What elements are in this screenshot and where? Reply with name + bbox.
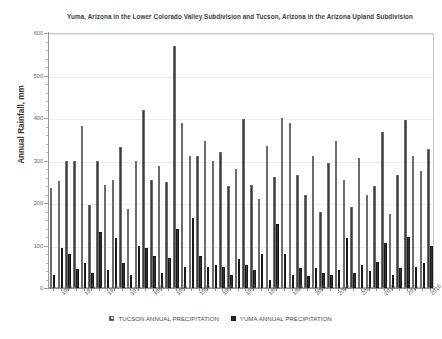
chart-legend: TUCSON ANNUAL PRECIPITATION YUMA ANNUAL … [0,314,441,322]
bar-tucson[interactable] [335,141,338,288]
legend-label-tucson: TUCSON ANNUAL PRECIPITATION [118,315,218,322]
bar-tucson[interactable] [50,188,53,288]
bar-group [95,33,103,288]
bar-yuma[interactable] [215,265,218,288]
y-minor-tick [46,67,49,68]
x-tick-mark [376,288,377,291]
bar-group [141,33,149,288]
bar-tucson[interactable] [304,195,307,289]
bar-tucson[interactable] [327,163,330,288]
bar-group [172,33,180,288]
bar-yuma[interactable] [399,268,402,288]
y-minor-tick [46,220,49,221]
bar-yuma[interactable] [430,246,433,288]
bar-yuma[interactable] [53,275,56,288]
bar-group [149,33,157,288]
bar-group [234,33,242,288]
bar-group [311,33,319,288]
x-tick-mark [76,288,77,291]
bars-layer [49,33,434,288]
bar-yuma[interactable] [330,275,333,288]
bar-group [272,33,280,288]
y-minor-tick [46,254,49,255]
bar-yuma[interactable] [423,263,426,288]
y-tick-mark [44,33,48,34]
bar-yuma[interactable] [245,265,248,288]
bar-yuma[interactable] [315,268,318,288]
bar-yuma[interactable] [222,267,225,288]
bar-yuma[interactable] [292,275,295,288]
y-tick-label: 100 [17,243,43,249]
bar-tucson[interactable] [181,123,184,288]
bar-group [265,33,273,288]
bar-yuma[interactable] [115,238,118,288]
y-tick-label: 600 [17,30,43,36]
bar-yuma[interactable] [130,275,133,288]
x-tick-mark [168,288,169,291]
bar-group [103,33,111,288]
bar-group [326,33,334,288]
bar-group [126,33,134,288]
bar-group [380,33,388,288]
bar-yuma[interactable] [192,218,195,288]
bar-yuma[interactable] [307,276,310,288]
bar-group [188,33,196,288]
bar-yuma[interactable] [346,238,349,288]
y-tick-label: 500 [17,73,43,79]
y-minor-tick [46,263,49,264]
x-tick-mark [307,288,308,291]
bar-yuma[interactable] [168,258,171,288]
bar-yuma[interactable] [153,256,156,288]
y-tick-mark [44,118,48,119]
bar-yuma[interactable] [238,259,241,288]
bar-group [49,33,57,288]
y-minor-tick [46,212,49,213]
bar-group [349,33,357,288]
bar-group [242,33,250,288]
bar-group [57,33,65,288]
y-tick-mark [44,288,48,289]
bar-yuma[interactable] [199,256,202,288]
bar-yuma[interactable] [284,254,287,288]
x-tick-mark [145,288,146,291]
bar-yuma[interactable] [138,246,141,289]
bar-group [203,33,211,288]
bar-group [157,33,165,288]
bar-yuma[interactable] [176,229,179,288]
bar-group [342,33,350,288]
bar-tucson[interactable] [158,166,161,288]
x-tick-mark [191,288,192,291]
bar-yuma[interactable] [338,270,341,288]
bar-group [226,33,234,288]
bar-group [288,33,296,288]
bar-tucson[interactable] [289,123,292,288]
bar-tucson[interactable] [227,186,230,288]
bar-group [388,33,396,288]
bar-group [396,33,404,288]
bar-group [165,33,173,288]
bar-yuma[interactable] [76,269,79,288]
bar-tucson[interactable] [266,146,269,288]
checkered-swatch-icon [109,316,114,321]
legend-entry-tucson: TUCSON ANNUAL PRECIPITATION [109,315,219,322]
bar-yuma[interactable] [376,262,379,288]
bar-yuma[interactable] [353,273,356,288]
y-minor-tick [46,135,49,136]
bar-yuma[interactable] [61,248,64,288]
bar-tucson[interactable] [242,119,245,288]
bar-group [426,33,434,288]
bar-yuma[interactable] [261,254,264,288]
bar-yuma[interactable] [122,263,125,289]
bar-yuma[interactable] [276,224,279,288]
bar-yuma[interactable] [84,263,87,289]
x-tick-mark [99,288,100,291]
bar-yuma[interactable] [99,232,102,288]
bar-yuma[interactable] [361,265,364,288]
bar-yuma[interactable] [384,243,387,288]
bar-yuma[interactable] [107,270,110,288]
bar-yuma[interactable] [145,248,148,288]
bar-group [72,33,80,288]
bar-yuma[interactable] [407,237,410,288]
x-tick-mark [330,288,331,291]
